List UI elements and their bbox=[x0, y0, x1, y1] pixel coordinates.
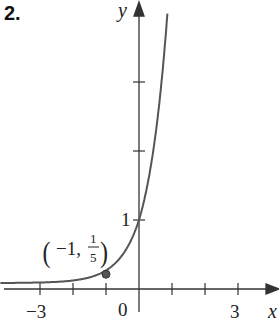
svg-text:5: 5 bbox=[90, 250, 97, 265]
point-annotation: (−1,15) bbox=[42, 231, 108, 269]
function-curve bbox=[0, 14, 167, 283]
x-axis-arrow-icon bbox=[266, 284, 279, 294]
y-axis-arrow-icon bbox=[134, 2, 144, 16]
svg-text:−1,: −1, bbox=[56, 238, 81, 259]
y-axis-label: y bbox=[116, 0, 127, 22]
svg-text:1: 1 bbox=[90, 231, 97, 246]
y-tick-label: 1 bbox=[121, 209, 131, 230]
x-tick-label: 3 bbox=[230, 301, 240, 322]
point-marker bbox=[102, 270, 110, 278]
exponential-plot: yx−3031(−1,15) bbox=[0, 0, 279, 328]
origin-label: 0 bbox=[118, 299, 128, 320]
svg-text:(: ( bbox=[42, 235, 50, 268]
x-axis-label: x bbox=[267, 300, 277, 322]
svg-text:): ) bbox=[100, 235, 108, 268]
x-tick-label: −3 bbox=[26, 301, 46, 322]
